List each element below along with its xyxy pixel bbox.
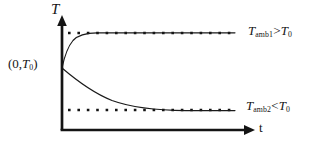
ambient-low-compare-subscript: 0: [286, 105, 290, 114]
ambient-low-compare-symbol: T: [279, 98, 286, 113]
cooling-heating-diagram: T t (0,T0) Tamb1>T0 Tamb2<T0: [0, 0, 315, 149]
ambient-low-label: Tamb2<T0: [246, 99, 290, 114]
ambient-high-relation: >: [273, 23, 281, 38]
ambient-high-compare-subscript: 0: [288, 30, 292, 39]
ambient-high-compare-symbol: T: [281, 23, 288, 38]
cooling-curve: [62, 68, 235, 111]
x-axis-label-text: t: [259, 120, 263, 135]
heating-curve: [62, 33, 235, 68]
initial-point-label: (0,T0): [8, 57, 38, 72]
x-axis-arrowhead: [244, 125, 255, 135]
ambient-low-relation: <: [271, 98, 279, 113]
plot-canvas: [0, 0, 315, 149]
initial-point-close-paren: ): [33, 56, 37, 71]
ambient-low-subscript: amb2: [253, 105, 271, 114]
ambient-high-label: Tamb1>T0: [248, 24, 292, 39]
x-axis-label: t: [259, 121, 263, 134]
ambient-high-subscript: amb1: [255, 30, 273, 39]
y-axis-label: T: [51, 2, 59, 17]
y-axis-label-text: T: [51, 1, 59, 17]
